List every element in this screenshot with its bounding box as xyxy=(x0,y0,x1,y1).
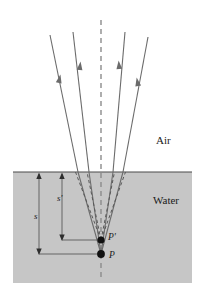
refracted-rays-group xyxy=(50,32,148,172)
water-label: Water xyxy=(153,194,179,206)
image-point-label: P' xyxy=(107,232,117,242)
ray-arrow-3-icon xyxy=(116,60,123,69)
refracted-ray-4 xyxy=(123,37,148,172)
ray-arrow-2-icon xyxy=(77,61,84,70)
air-label: Air xyxy=(156,134,171,146)
ray-arrow-1-icon xyxy=(56,74,63,84)
refracted-ray-1 xyxy=(50,35,78,172)
dimension-s-label: s xyxy=(34,211,38,221)
image-point-dot xyxy=(97,236,104,243)
refracted-ray-3 xyxy=(113,32,125,172)
water-region xyxy=(13,172,192,283)
diagram-canvas: Air Water P' P s s' xyxy=(0,0,206,291)
refraction-figure: Air Water P' P s s' xyxy=(0,0,206,291)
refracted-ray-2 xyxy=(73,32,89,172)
ray-direction-arrows-group xyxy=(56,60,141,86)
object-point-dot xyxy=(97,250,105,258)
object-point-label: P xyxy=(108,250,115,260)
